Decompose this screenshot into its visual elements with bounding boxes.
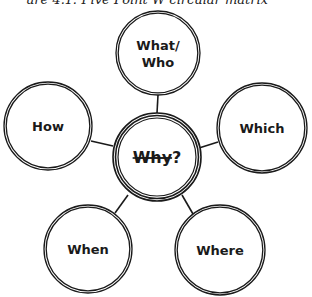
node-label-what-who: Who: [142, 55, 175, 70]
connector-line-which: [199, 142, 218, 148]
connector-line-when: [115, 195, 128, 213]
node-which: Which: [217, 83, 307, 173]
node-label-how: How: [32, 119, 64, 134]
node-label-what-who: What/: [136, 38, 180, 53]
node-how: How: [4, 82, 92, 170]
center-node-why: Why?: [113, 113, 201, 201]
five-w-circular-matrix: What/WhoHowWhichWhenWhere Why?: [0, 0, 312, 297]
connector-line-what-who: [157, 95, 158, 113]
node-when: When: [44, 205, 132, 293]
node-label-which: Which: [239, 121, 284, 136]
connector-line-how: [91, 141, 113, 146]
node-label-when: When: [67, 242, 109, 257]
question-mark: ?: [172, 148, 181, 167]
node-where: Where: [175, 205, 265, 295]
node-what-who: What/Who: [116, 11, 200, 95]
connector-line-where: [182, 195, 193, 214]
node-label-where: Where: [196, 243, 244, 258]
